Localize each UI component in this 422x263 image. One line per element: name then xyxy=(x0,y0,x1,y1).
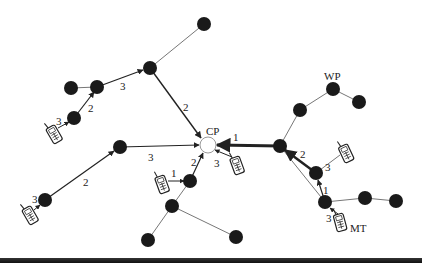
node xyxy=(309,166,323,180)
node xyxy=(293,103,307,117)
phone-icon xyxy=(228,150,245,175)
phone-icon xyxy=(336,138,355,163)
hop-label: 2 xyxy=(83,176,89,188)
wp-node xyxy=(326,82,340,96)
node xyxy=(141,233,155,247)
node xyxy=(64,81,78,95)
hop-label: 2 xyxy=(191,156,197,168)
node xyxy=(67,111,81,125)
bottom-border xyxy=(0,258,422,263)
phone-icon xyxy=(153,169,170,194)
hop-label: 1 xyxy=(171,167,177,179)
node xyxy=(197,17,211,31)
hop-label: 2 xyxy=(88,102,94,114)
node xyxy=(273,139,287,153)
node xyxy=(358,191,372,205)
phone-icon xyxy=(332,207,348,232)
hop-label: 3 xyxy=(56,115,62,127)
hop-label: 2 xyxy=(300,148,306,160)
node xyxy=(113,140,127,154)
node xyxy=(143,61,157,75)
hop-label: 3 xyxy=(214,157,220,169)
hop-label: 3 xyxy=(148,151,154,163)
hop-label: 3 xyxy=(325,161,331,173)
hop-label: 3 xyxy=(32,193,38,205)
node xyxy=(165,199,179,213)
hop-label: 2 xyxy=(183,101,189,113)
mt-label: MT xyxy=(350,222,367,234)
node xyxy=(389,194,403,208)
node xyxy=(229,230,243,244)
hop-label: 1 xyxy=(323,184,329,196)
cp-label: CP xyxy=(206,125,219,137)
nodes xyxy=(38,17,403,247)
network-diagram: CP WP MT 3 2 3 2 3 2 3 1 2 3 1 2 3 1 3 xyxy=(0,0,422,263)
labels: CP WP MT 3 2 3 2 3 2 3 1 2 3 1 2 3 1 3 xyxy=(32,70,367,234)
node xyxy=(318,195,332,209)
route-links xyxy=(34,68,338,214)
node xyxy=(38,193,52,207)
hop-label: 3 xyxy=(120,80,126,92)
hop-label: 1 xyxy=(233,131,239,143)
hop-label: 3 xyxy=(326,212,332,224)
node xyxy=(90,80,104,94)
node xyxy=(183,174,197,188)
wp-label: WP xyxy=(324,70,341,82)
node xyxy=(352,95,366,109)
central-point xyxy=(200,137,216,153)
